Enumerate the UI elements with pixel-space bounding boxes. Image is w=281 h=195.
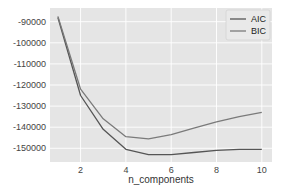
x-tick-label: 8 xyxy=(214,165,219,175)
x-tick-label: 10 xyxy=(257,165,267,175)
y-tick-label: -110000 xyxy=(14,59,46,69)
legend-label-aic: AIC xyxy=(251,14,267,24)
y-tick-label: -100000 xyxy=(13,38,46,48)
y-tick-label: -90000 xyxy=(18,17,46,27)
y-tick-label: -130000 xyxy=(13,101,46,111)
line-chart: -90000-100000-110000-120000-130000-14000… xyxy=(0,0,281,195)
legend: AICBIC xyxy=(226,10,270,40)
y-axis-ticks: -90000-100000-110000-120000-130000-14000… xyxy=(13,17,46,154)
y-tick-label: -150000 xyxy=(13,143,46,153)
y-tick-label: -140000 xyxy=(13,122,46,132)
x-tick-label: 2 xyxy=(78,165,83,175)
x-axis-label: n_components xyxy=(128,174,194,185)
y-tick-label: -120000 xyxy=(13,80,46,90)
legend-label-bic: BIC xyxy=(251,26,267,36)
